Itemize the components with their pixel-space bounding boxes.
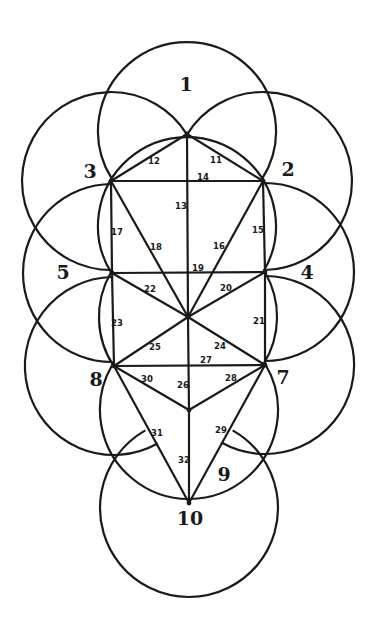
node-point-p8	[112, 364, 117, 369]
node-label-8: 8	[89, 368, 102, 390]
path-label-25: 25	[149, 342, 161, 352]
path-label-17: 17	[111, 227, 123, 237]
path-label-20: 20	[220, 283, 232, 293]
path-label-22: 22	[144, 284, 156, 294]
path-label-24: 24	[214, 341, 226, 351]
path-label-28: 28	[225, 373, 237, 383]
path-label-30: 30	[141, 374, 153, 384]
path-label-21: 21	[253, 316, 265, 326]
path-label-31: 31	[151, 428, 163, 438]
node-point-v	[187, 408, 192, 413]
node-point-p1	[185, 132, 190, 137]
node-label-4: 4	[300, 261, 313, 283]
node-point-p5	[110, 271, 115, 276]
path-label-13: 13	[175, 201, 187, 211]
path-label-14: 14	[197, 172, 209, 182]
node-point-c	[186, 315, 191, 320]
path-27-line	[114, 365, 265, 366]
node-label-7: 7	[276, 366, 289, 388]
path-label-29: 29	[215, 425, 227, 435]
path-label-27: 27	[200, 355, 212, 365]
path-label-11: 11	[210, 155, 222, 165]
path-label-26: 26	[177, 380, 189, 390]
node-point-p2	[261, 179, 266, 184]
node-point-p10	[187, 501, 192, 506]
path-label-19: 19	[192, 263, 204, 273]
path-label-16: 16	[213, 241, 225, 251]
node-point-p7	[263, 363, 268, 368]
node-label-2: 2	[281, 158, 294, 180]
tree-of-life-diagram: 1112131415161718192021222324252627282930…	[0, 0, 372, 634]
path-26-line	[188, 317, 189, 410]
node-label-9: 9	[217, 463, 230, 485]
path-label-15: 15	[252, 225, 264, 235]
path-16-line	[188, 181, 263, 317]
node-label-1: 1	[179, 73, 192, 95]
path-label-18: 18	[150, 242, 162, 252]
node-label-3: 3	[83, 160, 96, 182]
node-label-5: 5	[56, 261, 69, 283]
path-label-12: 12	[148, 156, 160, 166]
node-point-p4	[263, 270, 268, 275]
path-label-32: 32	[178, 455, 190, 465]
path-19-line	[112, 272, 265, 273]
node-label-10: 10	[177, 507, 203, 529]
path-13-line	[187, 134, 188, 317]
path-label-23: 23	[111, 318, 123, 328]
node-point-p3	[109, 179, 114, 184]
